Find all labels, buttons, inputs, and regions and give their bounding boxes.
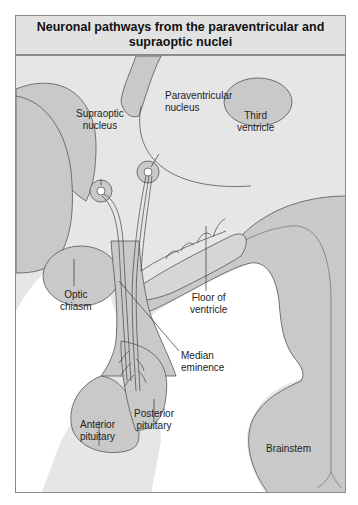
label-supraoptic-nucleus: Supraoptic nucleus [76,108,124,132]
label-brainstem: Brainstem [266,443,311,455]
label-third-ventricle: Third ventricle [237,110,274,134]
figure-frame: Neuronal pathways from the paraventricul… [15,15,346,493]
label-optic-chiasm: Optic chiasm [60,289,92,313]
label-anterior-pituitary: Anterior pituitary [80,419,115,443]
label-median-eminence: Median eminence [181,350,224,374]
figure-title: Neuronal pathways from the paraventricul… [31,20,331,50]
label-paraventricular-nucleus: Paraventricular nucleus [165,90,232,114]
label-posterior-pituitary: Posterior pituitary [134,408,174,432]
title-bar: Neuronal pathways from the paraventricul… [16,16,345,56]
label-floor-of-ventricle: Floor of ventricle [190,292,227,316]
anatomy-illustration [16,56,346,493]
